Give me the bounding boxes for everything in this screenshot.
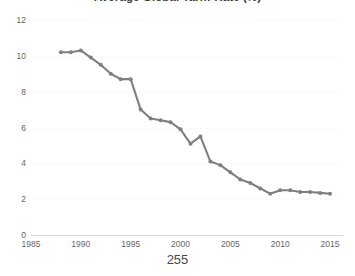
data-point xyxy=(109,72,113,76)
data-point xyxy=(278,188,282,192)
data-point xyxy=(218,163,222,167)
page-number: 255 xyxy=(0,252,355,267)
data-point xyxy=(208,160,212,164)
data-point xyxy=(248,181,252,185)
series-line xyxy=(61,50,330,193)
data-point xyxy=(169,120,173,124)
data-point xyxy=(89,56,93,60)
data-point xyxy=(79,48,83,52)
data-point xyxy=(228,170,232,174)
data-point xyxy=(179,127,183,131)
data-point xyxy=(328,192,332,196)
data-point xyxy=(159,118,163,122)
chart-page: Average Global Tariff Rate (%) 024681012… xyxy=(0,0,355,276)
data-point xyxy=(119,77,123,81)
data-point xyxy=(318,191,322,195)
data-point xyxy=(129,77,133,81)
data-point xyxy=(238,177,242,181)
data-point xyxy=(188,142,192,146)
data-point xyxy=(69,50,73,54)
data-point xyxy=(149,117,153,121)
data-point xyxy=(99,63,103,67)
tariff-rate-line-series xyxy=(0,0,355,276)
data-point xyxy=(258,186,262,190)
data-point xyxy=(59,50,63,54)
data-point xyxy=(288,188,292,192)
data-point xyxy=(139,108,143,112)
data-point xyxy=(298,190,302,194)
data-point xyxy=(268,192,272,196)
data-point xyxy=(198,134,202,138)
series-markers xyxy=(59,48,332,195)
data-point xyxy=(308,190,312,194)
